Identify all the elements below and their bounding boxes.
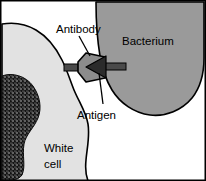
label-bacterium: Bacterium xyxy=(122,35,174,47)
label-white-cell-line1: White xyxy=(44,142,73,154)
diagram-canvas: Antibody Bacterium Antigen White cell xyxy=(0,0,206,181)
label-antibody: Antibody xyxy=(56,23,101,35)
label-antigen: Antigen xyxy=(77,109,116,121)
label-white-cell-line2: cell xyxy=(44,158,61,170)
antibody-diagram-figure: Antibody Bacterium Antigen White cell xyxy=(0,0,206,181)
antibody-right-arm xyxy=(104,63,126,70)
